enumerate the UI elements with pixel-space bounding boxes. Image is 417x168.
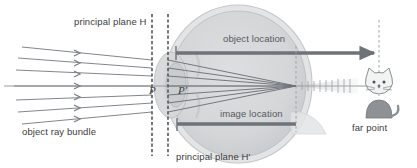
label-far-point: far point	[352, 122, 387, 133]
label-point-p-prime: P'	[178, 84, 187, 96]
label-object-ray-bundle: object ray bundle	[22, 126, 96, 137]
label-object-ray-bundle-text: object ray bundle	[22, 126, 96, 137]
label-image-location: image location	[220, 108, 283, 119]
optics-diagram: principal plane H principal plane H' obj…	[0, 0, 417, 168]
cat-eye-right	[383, 81, 386, 84]
label-object-location: object location	[223, 33, 285, 44]
label-principal-plane-h-text: principal plane H	[74, 16, 146, 27]
far-point-marker	[378, 85, 381, 88]
label-principal-plane-h-prime: principal plane H'	[176, 151, 250, 162]
cat-tail-shape	[392, 106, 398, 116]
ray	[18, 58, 152, 68]
ray-arrowhead	[74, 94, 80, 100]
ray	[22, 47, 152, 60]
label-object-location-text: object location	[223, 33, 285, 44]
label-point-p: P	[149, 84, 156, 96]
label-principal-plane-h-prime-text: principal plane H'	[176, 151, 250, 162]
label-principal-plane-h: principal plane H	[74, 16, 146, 27]
label-far-point-text: far point	[352, 122, 387, 133]
far-point-cat-figure	[365, 68, 398, 118]
label-point-p-text: P	[149, 84, 156, 96]
ray	[18, 103, 152, 112]
label-point-p-prime-text: P'	[178, 84, 187, 96]
ray	[16, 70, 152, 76]
ray	[22, 112, 152, 124]
cat-body-shape	[366, 100, 392, 118]
diagram-canvas	[0, 0, 417, 168]
cat-eye-left	[373, 81, 376, 84]
ray	[16, 95, 152, 100]
object-ray-bundle-group	[14, 47, 152, 124]
ray-arrowhead	[74, 71, 80, 77]
ray-arrowhead	[74, 50, 80, 56]
label-image-location-text: image location	[220, 108, 283, 119]
ray-arrowhead	[74, 60, 80, 66]
